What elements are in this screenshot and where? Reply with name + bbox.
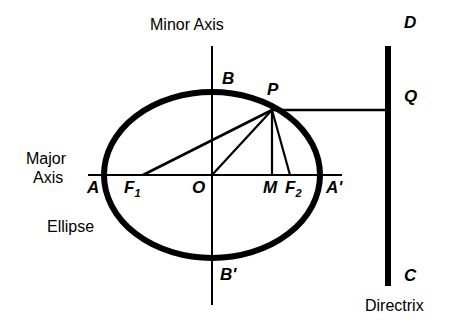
covertex-b-prime-base: B [220,265,232,284]
focus-2-base: F [285,178,295,197]
directrix-label: Directrix [365,298,424,314]
vertex-a-prime-mark: ' [338,178,342,197]
center-o-label: O [192,179,205,196]
focus-1-base: F [124,178,134,197]
major-axis-label-line2: Axis [33,170,63,186]
point-p-label: P [267,81,278,98]
minor-axis-label: Minor Axis [150,17,224,33]
point-m-label: M [263,179,277,196]
vertex-a-prime-label: A' [326,179,342,196]
focus-1-subscript: 1 [134,187,140,199]
segment-p-to-f1 [143,110,272,175]
covertex-b-label: B [222,70,234,87]
ellipse-diagram: Minor Axis Major Axis Ellipse Directrix … [0,0,456,330]
covertex-b-prime-label: B' [220,266,236,283]
directrix-top-d-label: D [404,14,416,31]
ellipse-label: Ellipse [47,219,94,235]
vertex-a-prime-base: A [326,178,338,197]
focus-2-subscript: 2 [295,187,301,199]
focus-2-label: F2 [285,179,302,199]
segment-p-to-f2 [272,110,290,175]
covertex-b-prime-mark: ' [232,265,236,284]
directrix-bottom-c-label: C [404,267,416,284]
segment-p-to-o [212,110,272,175]
vertex-a-label: A [87,179,99,196]
focus-1-label: F1 [124,179,141,199]
directrix-q-label: Q [404,88,417,105]
major-axis-label-line1: Major [26,151,66,167]
